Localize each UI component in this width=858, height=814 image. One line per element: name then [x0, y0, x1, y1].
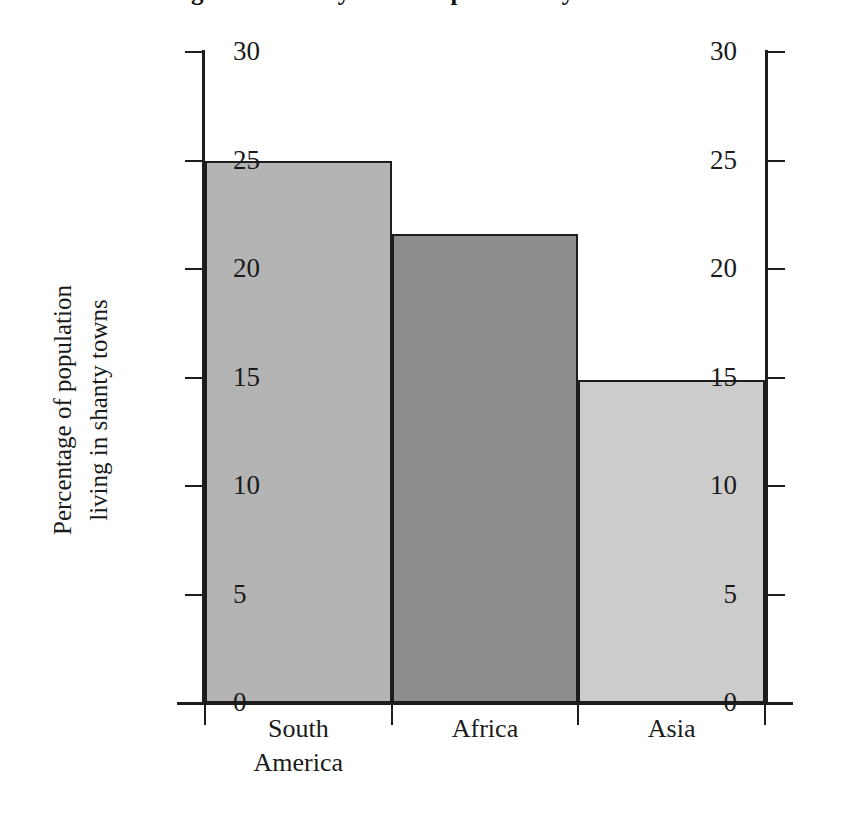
bar-chart-figure: Figure 2: Shanty Town Population by Cont… — [0, 0, 858, 814]
right-tick-label-20: 20 — [233, 255, 260, 282]
right-tick-label-30: 30 — [233, 38, 260, 65]
right-tick-5 — [768, 594, 785, 596]
left-tick-30 — [185, 51, 202, 53]
bar-africa[interactable] — [392, 234, 579, 703]
right-tick-30 — [768, 51, 785, 53]
chart-title: Figure 2: Shanty Town Population by Cont… — [0, 0, 858, 6]
x-axis-label-line: South — [205, 712, 392, 746]
x-axis-label-line: Africa — [392, 712, 579, 746]
x-axis-label-south-america: SouthAmerica — [205, 712, 392, 780]
right-tick-label-5: 5 — [233, 581, 247, 608]
y-axis-title-text: Percentage of population living in shant… — [45, 285, 117, 535]
y-axis-title-line-1: Percentage of population — [49, 285, 76, 535]
x-axis-label-line: Asia — [578, 712, 765, 746]
left-tick-label-20: 20 — [710, 255, 737, 282]
bar-asia[interactable] — [578, 380, 765, 703]
left-tick-10 — [185, 485, 202, 487]
x-axis-label-africa: Africa — [392, 712, 579, 746]
right-tick-20 — [768, 268, 785, 270]
left-tick-25 — [185, 160, 202, 162]
left-tick-0 — [185, 702, 202, 704]
left-axis-line — [202, 50, 205, 705]
left-tick-label-30: 30 — [710, 38, 737, 65]
x-axis-line — [177, 702, 793, 705]
left-tick-label-10: 10 — [710, 472, 737, 499]
right-tick-label-15: 15 — [233, 364, 260, 391]
plot-area: 051015202530 051015202530 — [205, 52, 765, 703]
right-tick-label-25: 25 — [233, 147, 260, 174]
left-tick-label-25: 25 — [710, 147, 737, 174]
left-tick-label-15: 15 — [710, 364, 737, 391]
right-tick-15 — [768, 377, 785, 379]
right-tick-10 — [768, 485, 785, 487]
y-axis-title-line-2: living in shanty towns — [81, 285, 117, 535]
left-tick-5 — [185, 594, 202, 596]
left-tick-20 — [185, 268, 202, 270]
right-tick-0 — [768, 702, 785, 704]
left-tick-label-5: 5 — [724, 581, 738, 608]
x-axis-label-line: America — [205, 746, 392, 780]
right-tick-label-10: 10 — [233, 472, 260, 499]
right-tick-25 — [768, 160, 785, 162]
x-axis-label-asia: Asia — [578, 712, 765, 746]
left-tick-15 — [185, 377, 202, 379]
bar-south-america[interactable] — [205, 161, 392, 704]
y-axis-title: Percentage of population living in shant… — [26, 150, 136, 670]
